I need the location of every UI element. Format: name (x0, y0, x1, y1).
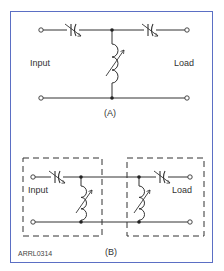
load-terminal-bottom-icon (185, 96, 189, 100)
input-terminal-bottom-icon (39, 96, 43, 100)
variable-capacitor-icon (65, 24, 81, 36)
panel-b-caption: (B) (105, 247, 117, 257)
junction-dot-icon (110, 28, 114, 32)
panel-b-schematic (23, 158, 204, 236)
figure-id-label: ARRL0314 (18, 249, 52, 259)
panel-b-input-label: Input (28, 185, 48, 195)
junction-dot-icon (137, 175, 141, 179)
load-terminal-top-icon (188, 175, 192, 179)
input-terminal-top-icon (31, 175, 35, 179)
input-terminal-bottom-icon (31, 220, 35, 224)
variable-inductor-icon (76, 177, 92, 222)
junction-dot-icon (79, 220, 83, 224)
load-terminal-bottom-icon (188, 220, 192, 224)
input-network-box (23, 158, 102, 236)
variable-capacitor-icon (154, 171, 170, 183)
load-terminal-top-icon (185, 28, 189, 32)
junction-dot-icon (110, 96, 114, 100)
variable-inductor-icon (106, 30, 124, 98)
schematic-canvas (0, 0, 224, 271)
panel-b-load-label: Load (172, 185, 192, 195)
variable-capacitor-icon (49, 171, 65, 183)
variable-inductor-icon (134, 177, 150, 222)
panel-a-input-label: Input (30, 58, 50, 68)
panel-a-caption: (A) (104, 108, 116, 118)
junction-dot-icon (79, 175, 83, 179)
load-network-box (127, 158, 204, 236)
variable-capacitor-icon (142, 24, 158, 36)
input-terminal-top-icon (39, 28, 43, 32)
junction-dot-icon (137, 220, 141, 224)
panel-a-load-label: Load (174, 58, 194, 68)
panel-a-schematic (39, 24, 189, 100)
